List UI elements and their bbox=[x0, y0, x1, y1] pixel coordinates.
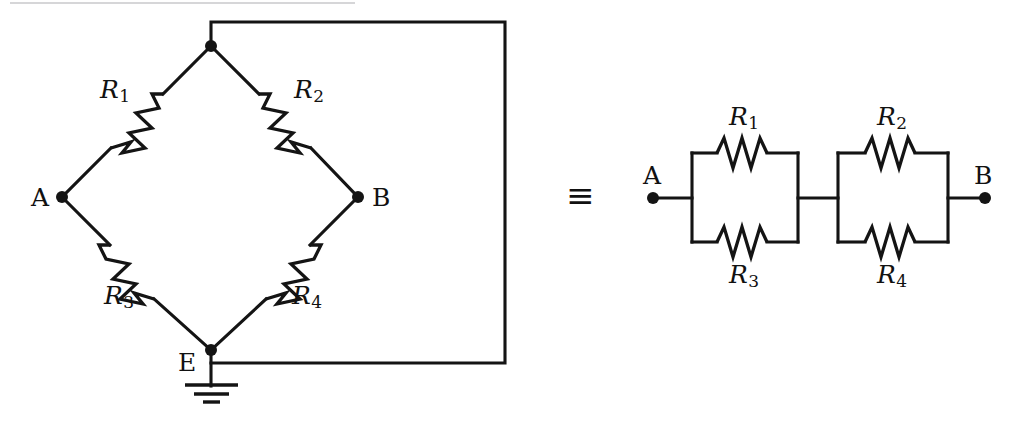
parallel-label-r2-sub: 2 bbox=[896, 113, 907, 133]
resistor-label-r3-sub: 3 bbox=[123, 292, 134, 312]
resistor-label-r2-letter: R bbox=[294, 75, 313, 104]
wire-r4-to-e bbox=[211, 299, 266, 350]
parallel-label-r3-sub: 3 bbox=[748, 271, 759, 291]
wire-top-to-r2 bbox=[211, 46, 259, 94]
node-dot-top bbox=[205, 40, 217, 52]
resistor-label-r1-sub: 1 bbox=[119, 86, 130, 106]
resistor-label-r3-letter: R bbox=[104, 281, 123, 310]
wire-top-to-r1 bbox=[163, 46, 211, 94]
terminal-dot-b bbox=[979, 192, 991, 204]
resistor-r3-parallel-zigzag bbox=[717, 227, 767, 257]
node-label-e: E bbox=[178, 350, 196, 375]
terminal-label-a: A bbox=[643, 163, 661, 188]
parallel-label-r4-letter: R bbox=[877, 260, 896, 289]
resistor-r1-parallel-zigzag bbox=[717, 138, 767, 168]
node-dot-b bbox=[352, 191, 364, 203]
resistor-label-r4: R4 bbox=[292, 283, 322, 311]
resistor-label-r1-letter: R bbox=[100, 75, 119, 104]
parallel-label-r1-sub: 1 bbox=[748, 113, 759, 133]
parallel-label-r3: R3 bbox=[729, 262, 759, 290]
parallel-label-r3-letter: R bbox=[729, 260, 748, 289]
parallel-label-r1-letter: R bbox=[729, 102, 748, 131]
resistor-label-r2-sub: 2 bbox=[313, 86, 324, 106]
circuit-figure: ≡ A B E R1 R2 R3 R4 A B R1 R2 R3 R4 bbox=[0, 0, 1018, 425]
resistor-label-r3: R3 bbox=[104, 283, 134, 311]
equivalence-symbol: ≡ bbox=[566, 178, 595, 212]
wire-r1-to-a bbox=[62, 148, 111, 197]
node-label-b: B bbox=[372, 185, 390, 210]
parallel-label-r1: R1 bbox=[729, 104, 759, 132]
equivalent-diagram bbox=[647, 138, 991, 257]
node-dot-a bbox=[56, 191, 68, 203]
resistor-r2-parallel-zigzag bbox=[865, 138, 915, 168]
terminal-label-b: B bbox=[974, 163, 992, 188]
parallel-label-r2: R2 bbox=[877, 104, 907, 132]
wire-r2-to-b bbox=[311, 148, 358, 197]
resistor-label-r2: R2 bbox=[294, 77, 324, 105]
node-dot-e bbox=[205, 344, 217, 356]
wire-r3-to-e bbox=[154, 299, 211, 350]
terminal-dot-a bbox=[647, 192, 659, 204]
parallel-label-r4-sub: 4 bbox=[896, 271, 907, 291]
wire-b-to-r4 bbox=[310, 197, 358, 245]
resistor-r4-parallel-zigzag bbox=[865, 227, 915, 257]
resistor-label-r4-letter: R bbox=[292, 281, 311, 310]
wire-a-to-r3 bbox=[62, 197, 110, 245]
circuit-canvas bbox=[0, 0, 1018, 425]
resistor-label-r4-sub: 4 bbox=[311, 292, 322, 312]
parallel-label-r4: R4 bbox=[877, 262, 907, 290]
node-label-a: A bbox=[31, 185, 49, 210]
parallel-label-r2-letter: R bbox=[877, 102, 896, 131]
resistor-label-r1: R1 bbox=[100, 77, 130, 105]
